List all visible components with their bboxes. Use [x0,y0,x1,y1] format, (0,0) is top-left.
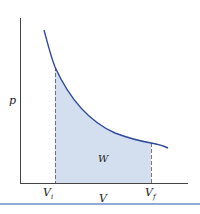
x-axis-label: V [99,192,108,205]
pv-diagram: p V W V i V f [0,0,200,214]
work-area [55,67,151,183]
y-axis-label: p [9,94,16,107]
vi-subscript: i [51,193,53,201]
vf-subscript: f [152,193,157,201]
area-label: W [98,153,109,164]
